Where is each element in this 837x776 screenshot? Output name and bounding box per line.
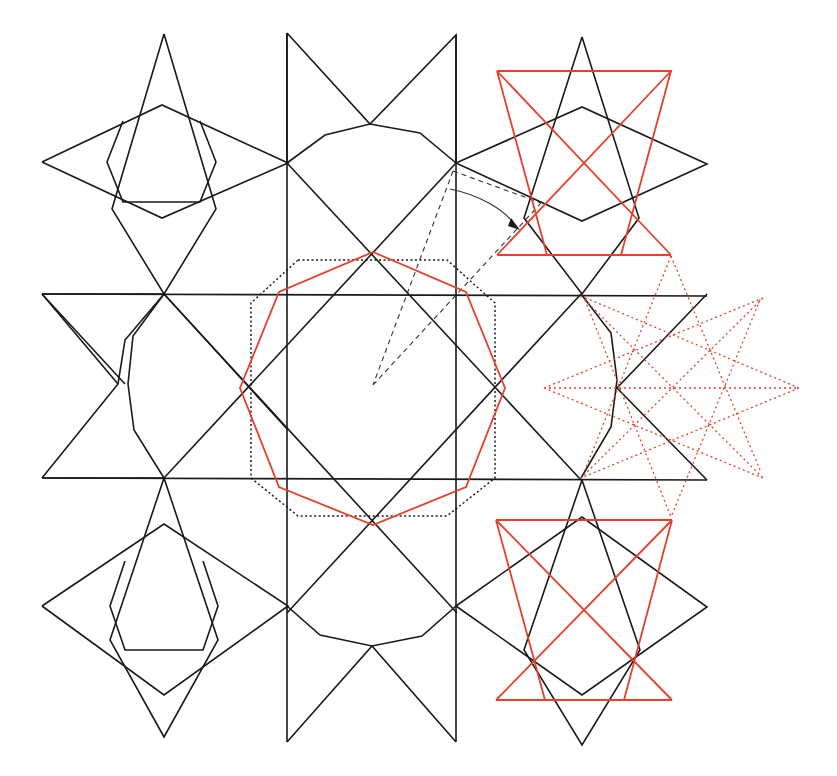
big-horizontal-top: [42, 294, 707, 296]
br-red-star: [496, 520, 672, 700]
tl-star-horizontal: [42, 105, 288, 218]
top-dome: [287, 124, 456, 163]
rotation-arrow: [450, 189, 520, 230]
black-construction-lines: [42, 33, 707, 745]
tl-star-vertical: [112, 34, 216, 294]
tl-inner-oct: [107, 121, 216, 202]
tr-red-star: [497, 71, 672, 255]
rotation-arc: [450, 189, 516, 226]
diag-3: [287, 163, 581, 480]
diag-4: [164, 163, 456, 478]
geometric-pattern-diagram: [0, 0, 837, 776]
arrowhead-icon: [508, 218, 520, 230]
bottom-dome: [287, 606, 456, 646]
tr-star-horizontal: [456, 107, 707, 221]
central-decagon: [240, 252, 505, 525]
diag-2: [287, 294, 581, 613]
br-star-horizontal: [456, 517, 707, 695]
rotation-guide: [373, 171, 541, 385]
bottom-bowtie: [287, 646, 456, 742]
ml-left-star-b: [42, 294, 164, 478]
bl-star-horizontal: [42, 524, 288, 695]
big-horizontal-bottom: [42, 478, 707, 480]
bl-star-vertical: [110, 478, 218, 737]
bl-inner-oct: [110, 561, 218, 650]
dashed-rotation-guide: [373, 171, 541, 385]
